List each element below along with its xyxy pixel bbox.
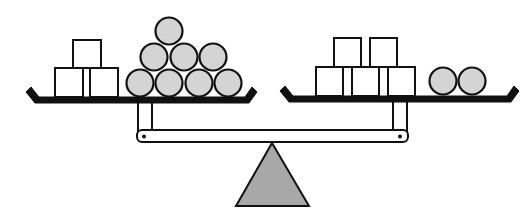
left-block-weight (73, 40, 101, 68)
fulcrum-triangle (236, 143, 309, 206)
left-block-weight (55, 68, 83, 97)
right-block-weight (352, 67, 379, 96)
left-ball-weight (215, 70, 242, 97)
left-ball-weight (171, 44, 198, 71)
right-block-weight (316, 67, 343, 96)
left-ball-weight (141, 44, 168, 71)
left-ball-weight (156, 18, 183, 45)
left-ball-weight (156, 70, 183, 97)
right-block-weight (334, 38, 361, 67)
right-ball-weight (430, 68, 457, 95)
left-ball-weight (186, 70, 213, 97)
left-ball-weight (200, 44, 227, 71)
balance-beam (137, 130, 408, 142)
right-ball-weight (459, 68, 486, 95)
right-block-weight (370, 38, 397, 67)
left-block-weight (90, 68, 118, 97)
left-ball-weight (127, 70, 154, 97)
right-block-weight (388, 67, 415, 96)
left-pan-items (55, 18, 242, 98)
right-pivot-pin (398, 135, 402, 139)
left-pivot-pin (142, 135, 146, 139)
balance-scale-diagram (0, 0, 528, 214)
right-pan-items (316, 38, 486, 96)
